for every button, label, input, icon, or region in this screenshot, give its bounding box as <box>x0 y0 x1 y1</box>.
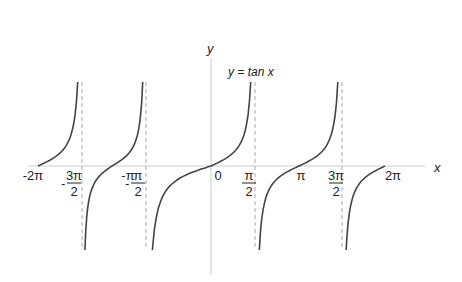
tan-branch <box>38 82 78 166</box>
tick-label: 0 <box>214 168 221 183</box>
tan-chart: -2π-3π2-π-π20π2π3π22π x y y = tan x <box>0 0 462 282</box>
x-axis-label: x <box>433 160 441 175</box>
svg-text:2: 2 <box>332 184 339 199</box>
chart-title: y = tan x <box>227 65 275 79</box>
svg-text:2: 2 <box>70 184 77 199</box>
svg-text:π: π <box>134 168 143 183</box>
tick-labels: -2π-3π2-π-π20π2π3π22π <box>23 168 401 199</box>
tick-label: π <box>297 168 306 183</box>
tick-label: 2π <box>385 168 401 183</box>
svg-text:3π: 3π <box>66 168 82 183</box>
axes <box>28 58 425 274</box>
svg-text:2: 2 <box>245 184 252 199</box>
svg-text:3π: 3π <box>328 168 344 183</box>
svg-text:-: - <box>125 176 129 191</box>
tick-label: π2 <box>242 168 256 199</box>
plot-area: -2π-3π2-π-π20π2π3π22π x y y = tan x <box>0 0 462 282</box>
svg-text:-: - <box>61 176 65 191</box>
tan-branch <box>346 166 385 250</box>
tick-label: -3π2 <box>61 168 82 199</box>
svg-text:π: π <box>245 168 254 183</box>
y-axis-label: y <box>206 41 215 56</box>
tick-label: -2π <box>23 168 44 183</box>
svg-text:2: 2 <box>134 184 141 199</box>
